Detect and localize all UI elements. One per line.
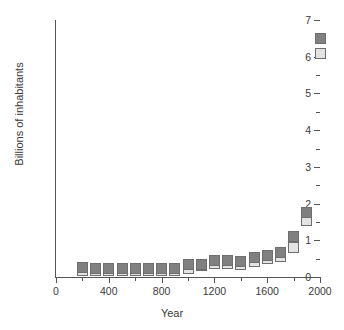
y-tick-minor	[316, 75, 320, 76]
data-point-high	[117, 263, 128, 274]
y-tick-major	[314, 240, 320, 241]
x-tick-minor	[82, 277, 83, 281]
x-tick-label: 1200	[189, 286, 239, 297]
x-axis-title: Year	[0, 307, 344, 319]
y-tick-label: 1	[305, 235, 311, 245]
data-point-high	[209, 255, 220, 266]
x-tick-label: 2000	[295, 286, 344, 297]
data-point-high	[143, 263, 154, 274]
data-point-high	[183, 259, 194, 270]
y-tick-label: 4	[305, 125, 311, 135]
x-tick-major	[267, 277, 268, 283]
y-tick-minor	[316, 149, 320, 150]
data-point-high	[235, 256, 246, 267]
data-point-high	[262, 250, 273, 261]
data-point-high	[103, 263, 114, 274]
data-point-high	[275, 247, 286, 258]
x-tick-minor	[135, 277, 136, 281]
x-tick-label: 800	[137, 286, 187, 297]
y-tick-major	[314, 204, 320, 205]
data-point-high	[77, 262, 88, 273]
y-tick-label: 3	[305, 162, 311, 172]
data-point-high	[222, 255, 233, 266]
y-tick-minor	[316, 259, 320, 260]
x-tick-minor	[294, 277, 295, 281]
data-point-low	[288, 242, 299, 253]
x-tick-major	[320, 277, 321, 283]
x-tick-label: 0	[31, 286, 81, 297]
x-tick-label: 1600	[242, 286, 292, 297]
y-axis-title: Billions of inhabitants	[13, 19, 25, 209]
data-point-high	[156, 263, 167, 274]
y-tick-label: 0	[305, 272, 311, 282]
data-point-high	[130, 263, 141, 274]
y-tick-major	[314, 167, 320, 168]
y-tick-minor	[316, 222, 320, 223]
y-tick-major	[314, 93, 320, 94]
x-tick-major	[214, 277, 215, 283]
data-point-high	[90, 263, 101, 274]
x-tick-major	[56, 277, 57, 283]
population-chart-figure: 01234567 0400800120016002000 Billions of…	[0, 0, 344, 330]
x-tick-major	[109, 277, 110, 283]
x-tick-minor	[188, 277, 189, 281]
y-tick-major	[314, 130, 320, 131]
x-tick-label: 400	[84, 286, 134, 297]
data-point-high	[196, 259, 207, 270]
y-tick-major	[314, 20, 320, 21]
y-tick-label: 5	[305, 88, 311, 98]
x-tick-major	[162, 277, 163, 283]
y-tick-label: 6	[305, 52, 311, 62]
data-point-high	[301, 207, 312, 218]
y-tick-minor	[316, 112, 320, 113]
y-tick-minor	[316, 185, 320, 186]
data-point-high	[169, 263, 180, 274]
data-point-high	[288, 231, 299, 242]
data-point-high	[315, 33, 326, 44]
y-tick-label: 7	[305, 15, 311, 25]
x-tick-minor	[241, 277, 242, 281]
plot-area: 01234567 0400800120016002000	[56, 20, 320, 277]
data-point-low	[315, 48, 326, 59]
data-point-high	[249, 252, 260, 263]
